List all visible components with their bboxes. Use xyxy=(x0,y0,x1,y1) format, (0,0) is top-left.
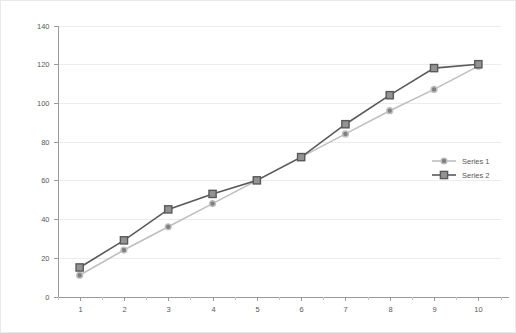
data-point-series-1-x-7[interactable] xyxy=(343,131,349,137)
data-point-series-1-x-2[interactable] xyxy=(121,247,127,253)
legend-label-2[interactable]: Series 2 xyxy=(462,171,490,180)
series-lines xyxy=(80,64,479,275)
x-tick-label-10: 10 xyxy=(474,305,482,314)
data-point-series-2-x-5[interactable] xyxy=(253,177,260,184)
data-point-series-2-x-10[interactable] xyxy=(475,61,482,68)
x-tick-label-2: 2 xyxy=(122,305,126,314)
x-axis-ticks: 12345678910 xyxy=(59,297,502,314)
y-tick-label-40: 40 xyxy=(41,215,49,224)
y-tick-label-80: 80 xyxy=(41,138,49,147)
chart-legend[interactable]: Series 1Series 2 xyxy=(432,157,490,180)
data-point-series-2-x-6[interactable] xyxy=(298,154,305,161)
chart-plot-area: 020406080100120140 12345678910 Series 1S… xyxy=(0,0,516,333)
data-point-series-2-x-9[interactable] xyxy=(430,64,437,71)
y-tick-label-20: 20 xyxy=(41,254,49,263)
data-point-series-1-x-1[interactable] xyxy=(77,272,83,278)
y-tick-label-0: 0 xyxy=(45,293,49,302)
x-tick-label-5: 5 xyxy=(255,305,259,314)
data-point-series-1-x-4[interactable] xyxy=(210,201,216,207)
series-line-2 xyxy=(80,64,479,267)
y-tick-label-60: 60 xyxy=(41,176,49,185)
y-tick-label-100: 100 xyxy=(37,99,50,108)
x-tick-label-8: 8 xyxy=(388,305,392,314)
data-point-series-1-x-8[interactable] xyxy=(387,108,393,114)
x-tick-label-7: 7 xyxy=(343,305,347,314)
data-point-series-1-x-3[interactable] xyxy=(165,224,171,230)
x-tick-label-6: 6 xyxy=(299,305,303,314)
x-tick-label-4: 4 xyxy=(211,305,215,314)
data-point-series-1-x-9[interactable] xyxy=(431,86,437,92)
legend-swatch-marker-2 xyxy=(440,171,447,178)
line-chart: 020406080100120140 12345678910 Series 1S… xyxy=(0,0,516,333)
x-tick-label-9: 9 xyxy=(432,305,436,314)
data-point-series-2-x-7[interactable] xyxy=(342,121,349,128)
data-point-series-2-x-8[interactable] xyxy=(386,92,393,99)
x-tick-label-1: 1 xyxy=(78,305,82,314)
gridlines xyxy=(58,27,501,259)
data-point-series-2-x-2[interactable] xyxy=(120,237,127,244)
data-point-series-2-x-3[interactable] xyxy=(165,206,172,213)
y-axis-ticks: 020406080100120140 xyxy=(37,22,58,302)
x-tick-label-3: 3 xyxy=(166,305,170,314)
data-point-series-2-x-1[interactable] xyxy=(76,264,83,271)
y-tick-label-140: 140 xyxy=(37,22,50,31)
series-line-1 xyxy=(80,66,479,275)
legend-swatch-marker-1 xyxy=(441,158,447,164)
y-tick-label-120: 120 xyxy=(37,60,50,69)
data-point-series-2-x-4[interactable] xyxy=(209,190,216,197)
legend-label-1[interactable]: Series 1 xyxy=(462,157,490,166)
